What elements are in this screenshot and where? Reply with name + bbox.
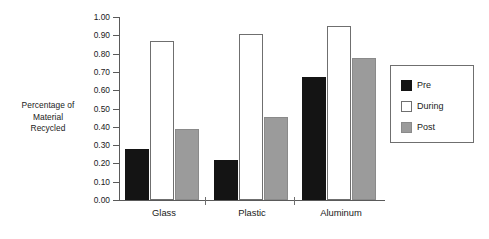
legend-swatch-pre-icon xyxy=(401,80,412,91)
y-tick-label: 0.20 xyxy=(78,159,110,167)
y-tick-label: 0.90 xyxy=(78,31,110,39)
bar-aluminum-post xyxy=(352,58,376,200)
recycling-bar-chart: Percentage of Material Recycled 1.000.90… xyxy=(0,0,489,239)
plot-area xyxy=(120,17,385,200)
bar-aluminum-during xyxy=(327,26,351,200)
y-tick-mark xyxy=(113,90,120,91)
y-tick-label: 0.60 xyxy=(78,86,110,94)
y-tick-label: 0.40 xyxy=(78,123,110,131)
bar-glass-during xyxy=(150,41,174,200)
y-tick-mark xyxy=(113,163,120,164)
legend-item-post: Post xyxy=(401,117,473,137)
y-tick-label: 0.30 xyxy=(78,141,110,149)
y-tick-mark xyxy=(113,54,120,55)
y-tick-label: 0.80 xyxy=(78,50,110,58)
x-axis-label-glass: Glass xyxy=(120,207,208,219)
y-tick-mark xyxy=(113,200,120,201)
legend-item-during: During xyxy=(401,96,473,116)
chart-legend: PreDuringPost xyxy=(390,65,474,143)
x-axis-group-separator xyxy=(205,197,206,205)
y-tick-label: 0.50 xyxy=(78,105,110,113)
x-axis-label-plastic: Plastic xyxy=(208,207,296,219)
y-tick-mark xyxy=(113,35,120,36)
y-tick-mark xyxy=(113,109,120,110)
bar-plastic-pre xyxy=(214,160,238,200)
x-axis-label-aluminum: Aluminum xyxy=(297,207,385,219)
y-tick-label: 0.70 xyxy=(78,68,110,76)
bar-glass-post xyxy=(175,129,199,200)
legend-item-pre: Pre xyxy=(401,75,473,95)
y-tick-label: 0.10 xyxy=(78,178,110,186)
legend-label: Pre xyxy=(417,81,431,90)
bar-plastic-during xyxy=(239,34,263,200)
x-axis-line xyxy=(119,200,385,201)
y-tick-mark xyxy=(113,182,120,183)
y-tick-label: 0.00 xyxy=(78,196,110,204)
legend-label: During xyxy=(417,102,444,111)
legend-swatch-during-icon xyxy=(401,101,412,112)
bar-aluminum-pre xyxy=(302,77,326,200)
y-tick-mark xyxy=(113,127,120,128)
y-tick-mark xyxy=(113,72,120,73)
y-tick-mark xyxy=(113,145,120,146)
y-tick-mark xyxy=(113,17,120,18)
bar-glass-pre xyxy=(125,149,149,200)
legend-swatch-post-icon xyxy=(401,122,412,133)
bar-plastic-post xyxy=(264,117,288,200)
legend-label: Post xyxy=(417,123,435,132)
x-axis-group-separator xyxy=(294,197,295,205)
y-tick-label: 1.00 xyxy=(78,13,110,21)
